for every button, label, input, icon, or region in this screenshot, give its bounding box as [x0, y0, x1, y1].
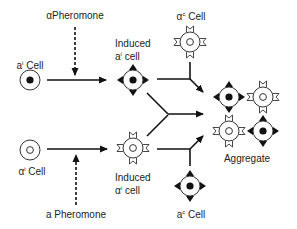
a-c-cell-label: ac Cell	[177, 207, 206, 220]
lower-merge-arrow	[157, 136, 203, 166]
alpha-c-cell	[174, 26, 206, 58]
a-i-cell	[20, 70, 40, 90]
induced-alpha-i-cell	[117, 132, 149, 164]
aggregate-label: Aggregate	[224, 153, 270, 164]
aggregate-cluster	[213, 81, 279, 147]
alpha-pheromone-label: αPheromone	[46, 10, 103, 21]
a-i-cell-label: ai Cell	[17, 58, 44, 71]
a-c-cell	[174, 170, 206, 202]
induced-a-i-cell	[117, 64, 149, 96]
a-pheromone-label: a Pheromone	[46, 209, 106, 220]
alpha-c-cell-label: αc Cell	[177, 9, 206, 22]
upper-merge-arrow	[157, 62, 203, 92]
induced-alpha-label: Induced αi cell	[115, 172, 151, 196]
alpha-i-cell-label: αi Cell	[18, 164, 45, 177]
induced-a-label: Induced ai cell	[115, 38, 151, 62]
central-merge-arrow	[147, 93, 203, 136]
alpha-i-cell	[20, 140, 40, 160]
